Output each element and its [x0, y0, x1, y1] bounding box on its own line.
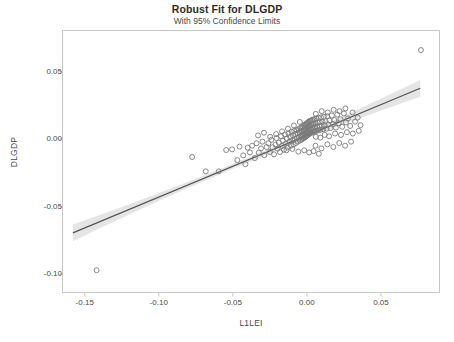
scatter-point [349, 139, 354, 144]
scatter-point [344, 130, 349, 135]
x-tick-label: -0.05 [213, 298, 253, 307]
scatter-point [256, 133, 261, 138]
scatter-point [350, 131, 355, 136]
chart-title: Robust Fit for DLGDP [0, 3, 454, 15]
scatter-point [331, 145, 336, 150]
scatter-point [333, 131, 338, 136]
scatter-point [340, 124, 345, 129]
y-tick-label: 0.00 [28, 134, 62, 143]
plot-area [0, 0, 454, 342]
scatter-point [291, 123, 296, 128]
chart-subtitle: With 95% Confidence Limits [0, 16, 454, 26]
y-tick-label: -0.05 [28, 202, 62, 211]
x-tick-label: 0.00 [287, 298, 327, 307]
scatter-point [319, 146, 324, 151]
scatter-point [356, 128, 361, 133]
scatter-point [280, 129, 285, 134]
x-tick-label: -0.15 [65, 298, 105, 307]
scatter-point [302, 148, 307, 153]
scatter-point [272, 152, 277, 157]
scatter-point [348, 123, 353, 128]
scatter-point [343, 143, 348, 148]
scatter-point [297, 119, 302, 124]
scatter-point [230, 147, 235, 152]
scatter-point [235, 158, 240, 163]
scatter-point [296, 149, 301, 154]
scatter-point [237, 144, 242, 149]
y-tick-label: -0.10 [28, 269, 62, 278]
y-tick-label: 0.05 [28, 67, 62, 76]
scatter-point [203, 169, 208, 174]
scatter-point [327, 134, 332, 139]
scatter-point [331, 107, 336, 112]
robust-fit-line [73, 88, 420, 233]
scatter-point [358, 123, 363, 128]
scatter-point [311, 149, 316, 154]
x-axis-label: L1LEI [62, 318, 440, 328]
scatter-point [261, 130, 266, 135]
scatter-point [313, 143, 318, 148]
scatter-point [224, 148, 229, 153]
plot-frame [63, 31, 440, 293]
scatter-point [325, 142, 330, 147]
x-tick-label: 0.05 [361, 298, 401, 307]
scatter-point [268, 134, 273, 139]
scatter-point [337, 141, 342, 146]
y-axis-tick-labels: 0.050.00-0.05-0.10 [0, 0, 62, 342]
scatter-point [316, 151, 321, 156]
axis-tick-marks [59, 72, 381, 297]
scatter-point [319, 109, 324, 114]
scatter-point [269, 137, 274, 142]
scatter-point [338, 132, 343, 137]
scatter-point [418, 48, 423, 53]
scatter-point [247, 150, 252, 155]
scatter-point [94, 268, 99, 273]
robust-fit-chart: Robust Fit for DLGDP With 95% Confidence… [0, 0, 454, 342]
scatter-point [343, 106, 348, 111]
scatter-point [260, 139, 265, 144]
scatter-point [285, 126, 290, 131]
scatter-point [259, 146, 264, 151]
scatter-point [254, 141, 259, 146]
scatter-point [190, 155, 195, 160]
scatter-point [241, 153, 246, 158]
scatter-points [94, 48, 423, 273]
x-tick-label: -0.10 [139, 298, 179, 307]
